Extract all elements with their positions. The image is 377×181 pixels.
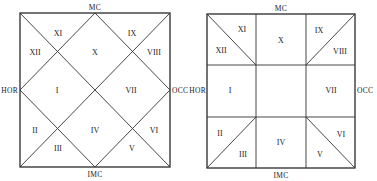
right-house-4: IV — [277, 138, 286, 147]
right-house-1: I — [229, 86, 232, 95]
left-house-2: II — [32, 126, 38, 135]
left-chart: MC IMC HOR OCC I II III IV V VI VII VIII… — [1, 3, 188, 179]
right-chart: MC IMC HOR OCC I II III IV V VI VII VIII… — [189, 4, 373, 180]
right-house-2: II — [217, 129, 223, 138]
left-house-5: V — [129, 144, 135, 153]
left-hor-label: HOR — [1, 86, 18, 95]
right-house-10: X — [278, 36, 284, 45]
right-house-8: VIII — [333, 47, 347, 56]
right-mc-label: MC — [275, 4, 287, 13]
left-house-9: IX — [128, 29, 137, 38]
left-imc-label: IMC — [87, 170, 102, 179]
right-diag-br — [306, 117, 355, 168]
right-imc-label: IMC — [273, 171, 288, 180]
right-house-3: III — [239, 150, 247, 159]
right-house-6: VI — [337, 130, 346, 139]
right-house-11: XI — [238, 25, 247, 34]
left-house-3: III — [54, 144, 62, 153]
left-house-4: IV — [91, 126, 100, 135]
right-diag-bl — [207, 117, 256, 168]
left-house-8: VIII — [147, 48, 161, 57]
right-hor-label: HOR — [189, 86, 206, 95]
left-occ-label: OCC — [172, 86, 188, 95]
left-house-1: I — [56, 86, 59, 95]
left-mc-label: MC — [89, 3, 101, 12]
right-house-7: VII — [325, 86, 336, 95]
left-house-6: VI — [150, 126, 159, 135]
right-house-12: XII — [215, 46, 226, 55]
right-house-5: V — [317, 150, 323, 159]
right-diag-tl — [207, 14, 256, 65]
house-charts-figure: MC IMC HOR OCC I II III IV V VI VII VIII… — [0, 0, 377, 181]
left-house-12: XII — [29, 48, 40, 57]
left-house-10: X — [92, 48, 98, 57]
left-house-11: XI — [54, 29, 63, 38]
left-house-7: VII — [125, 86, 136, 95]
right-diag-tr — [306, 14, 355, 65]
right-occ-label: OCC — [357, 86, 373, 95]
right-house-9: IX — [315, 26, 324, 35]
